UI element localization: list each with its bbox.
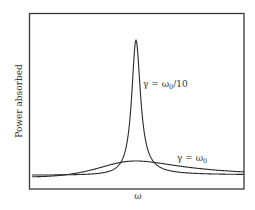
curve-gamma-omega0-over-10 [32, 40, 244, 175]
plot-frame [30, 14, 245, 190]
annotation-sharp-tail: /10 [173, 79, 187, 89]
y-axis-label: Power absorbed [14, 64, 24, 138]
annotation-broad: γ = ω0 [177, 153, 207, 165]
annotation-sharp: γ = ω0/10 [143, 79, 188, 91]
annotation-broad-subscript: 0 [203, 157, 207, 165]
annotation-broad-text: γ = ω [177, 153, 203, 163]
power-absorption-chart [0, 0, 255, 210]
x-axis-label: ω [134, 191, 141, 201]
annotation-sharp-text: γ = ω [143, 79, 169, 89]
